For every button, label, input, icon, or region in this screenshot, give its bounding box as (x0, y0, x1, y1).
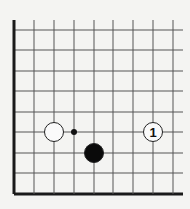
black-stone (85, 144, 104, 163)
point-marker-dot (71, 129, 77, 135)
stone-number-label: 1 (149, 125, 156, 140)
go-board-diagram: 1 (0, 0, 190, 209)
white-stone (45, 123, 64, 142)
